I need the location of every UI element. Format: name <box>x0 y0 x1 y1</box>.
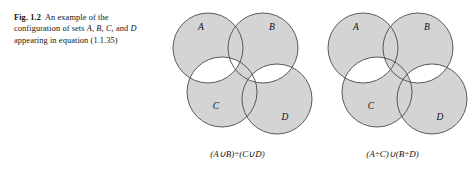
set-label-a: A <box>352 22 359 32</box>
figure-caption-line3: appearing in <box>14 36 57 45</box>
venn-panel-left: ABCD (A∪B)÷(C∪D) <box>160 4 315 180</box>
figure-caption-line1: An example of the <box>45 13 109 22</box>
shaded-region <box>173 13 312 134</box>
set-label-b: B <box>424 22 430 32</box>
venn-diagram-right: ABCD <box>315 4 470 144</box>
figure-container: Fig. 1.2An example of the configuration … <box>0 0 470 184</box>
set-label-a: A <box>197 22 204 32</box>
formula-left: (A∪B)÷(C∪D) <box>160 149 315 159</box>
set-label-b: B <box>269 22 275 32</box>
set-label-d: D <box>281 112 289 122</box>
figure-caption: Fig. 1.2An example of the configuration … <box>14 12 146 46</box>
venn-diagram-left: ABCD <box>160 4 315 144</box>
figure-caption-and: and <box>116 24 131 33</box>
figure-caption-label: Fig. 1.2 <box>14 13 41 22</box>
venn-panel-right: ABCD (A÷C)∪(B÷D) <box>315 4 470 180</box>
figure-caption-sets: A, B, C, <box>87 24 114 33</box>
figure-caption-line4: equation (1.1.35) <box>59 36 118 45</box>
formula-right: (A÷C)∪(B÷D) <box>315 149 470 159</box>
set-label-d: D <box>436 112 444 122</box>
set-label-c: C <box>368 101 375 111</box>
figure-caption-setd: D <box>130 24 136 33</box>
set-label-c: C <box>213 101 220 111</box>
figure-caption-line2: configuration of sets <box>14 24 87 33</box>
shaded-region <box>328 13 467 134</box>
